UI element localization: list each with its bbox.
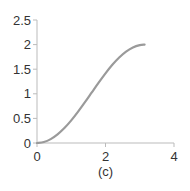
y-tick-label: 1 — [24, 86, 31, 101]
chart: 00.511.522.5024 (c) — [0, 0, 190, 191]
x-tick-label: 0 — [33, 149, 40, 164]
y-tick-label: 2.5 — [13, 13, 31, 28]
figure-caption: (c) — [98, 164, 113, 179]
y-tick-label: 0.5 — [13, 111, 31, 126]
y-tick-label: 2 — [24, 37, 31, 52]
series-layer — [37, 45, 145, 143]
x-tick-label: 2 — [102, 149, 109, 164]
axes — [33, 20, 174, 147]
series-line — [37, 45, 145, 143]
x-tick-label: 4 — [170, 149, 177, 164]
y-tick-label: 1.5 — [13, 62, 31, 77]
y-tick-label: 0 — [24, 136, 31, 151]
